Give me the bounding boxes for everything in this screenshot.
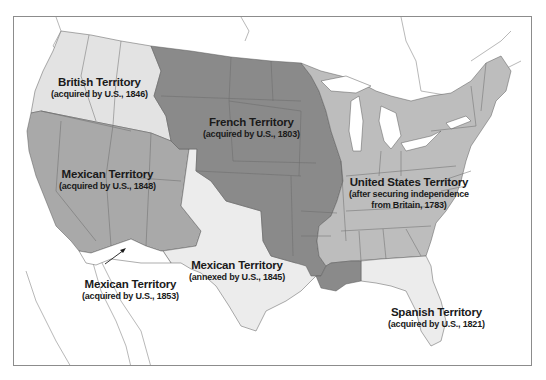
label-spanish-title: Spanish Territory (388, 306, 485, 319)
map-frame: British Territory (acquired by U.S., 184… (13, 16, 532, 366)
label-spanish-subtitle: (acquired by U.S., 1821) (388, 319, 485, 329)
label-spanish: Spanish Territory (acquired by U.S., 182… (388, 306, 485, 330)
